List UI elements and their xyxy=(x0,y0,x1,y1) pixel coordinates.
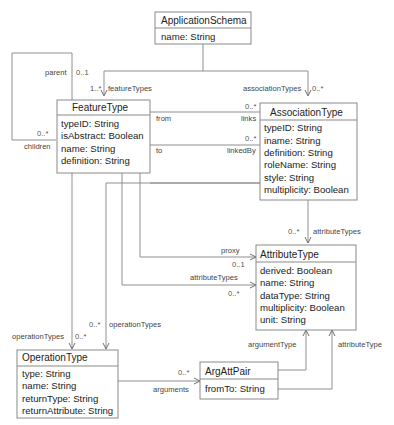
mult-linked-by: 0..* xyxy=(245,134,256,143)
class-attribute: typeID: String xyxy=(264,122,322,133)
class-application-schema[interactable]: ApplicationSchema name: String xyxy=(155,12,251,44)
connector-argument-type xyxy=(278,330,306,370)
mult-feature-attribute-types: 0..* xyxy=(228,289,239,298)
role-proxy: proxy xyxy=(221,246,240,255)
class-attribute: returnType: String xyxy=(22,393,98,404)
mult-proxy: 0..1 xyxy=(232,260,245,269)
class-attribute: returnAttribute: String xyxy=(22,405,113,416)
class-attribute: name: String xyxy=(61,143,115,154)
class-association-type[interactable]: AssociationType typeID: String iname: St… xyxy=(260,103,357,200)
class-attribute: roleName: String xyxy=(264,159,336,170)
class-attribute: dataType: String xyxy=(260,290,330,301)
role-feature-types: featureTypes xyxy=(108,84,152,93)
class-attribute: name: String xyxy=(260,277,314,288)
role-linked-by: linkedBy xyxy=(227,146,256,155)
class-feature-type[interactable]: FeatureType typeID: String isAbstract: B… xyxy=(57,100,150,173)
role-to: to xyxy=(156,146,162,155)
role-children: children xyxy=(24,142,51,151)
role-arguments: arguments xyxy=(153,385,189,394)
class-operation-type[interactable]: OperationType type: String name: String … xyxy=(17,350,118,418)
class-name: OperationType xyxy=(22,352,88,363)
class-attribute-type[interactable]: AttributeType derived: Boolean name: Str… xyxy=(256,245,356,330)
role-other-operation-types: operationTypes xyxy=(109,320,161,329)
mult-links: 0..* xyxy=(245,102,256,111)
class-name: ArgAttPair xyxy=(205,366,251,377)
role-attribute-type: attributeType xyxy=(338,340,382,349)
class-attribute: fromTo: String xyxy=(205,383,265,394)
role-links: links xyxy=(241,114,256,123)
class-attribute: definition: String xyxy=(61,155,130,166)
class-attribute: unit: String xyxy=(260,314,306,325)
connector-proxy xyxy=(140,173,256,257)
class-name: ApplicationSchema xyxy=(161,15,247,26)
role-feature-attribute-types: attributeTypes xyxy=(190,273,238,282)
mult-assoc-attribute-types: 0..* xyxy=(288,227,299,236)
class-attribute: definition: String xyxy=(264,147,333,158)
class-name: AttributeType xyxy=(260,249,319,260)
role-from: from xyxy=(156,114,171,123)
role-parent: parent xyxy=(45,68,67,77)
class-attribute: typeID: String xyxy=(61,118,119,129)
class-attribute: multiplicity: Boolean xyxy=(260,302,345,313)
class-attribute: multiplicity: Boolean xyxy=(264,184,349,195)
class-name: AssociationType xyxy=(270,107,343,118)
uml-class-diagram: featureTypes 1..* associationTypes 0..* … xyxy=(0,0,394,425)
class-arg-att-pair[interactable]: ArgAttPair fromTo: String xyxy=(200,362,278,399)
class-attribute: iname: String xyxy=(264,135,321,146)
role-feature-operation-types: operationTypes xyxy=(12,332,64,341)
class-attribute: name: String xyxy=(161,31,215,42)
mult-feature-operation-types: 0..* xyxy=(75,332,86,341)
mult-children: 0..* xyxy=(37,129,48,138)
mult-parent: 0..1 xyxy=(76,68,89,77)
role-argument-type: argumentType xyxy=(248,340,297,349)
connector-attribute-type xyxy=(278,330,332,389)
class-attribute: isAbstract: Boolean xyxy=(61,130,144,141)
class-attribute: name: String xyxy=(22,380,76,391)
class-attribute: style: String xyxy=(264,172,314,183)
class-attribute: type: String xyxy=(22,368,71,379)
mult-feature-types: 1..* xyxy=(90,84,101,93)
mult-association-types: 0..* xyxy=(312,84,323,93)
class-name: FeatureType xyxy=(72,102,129,113)
mult-arguments: 0..* xyxy=(178,368,189,377)
role-assoc-attribute-types: attributeTypes xyxy=(313,227,361,236)
class-attribute: derived: Boolean xyxy=(260,265,332,276)
mult-other-operation-types: 0..* xyxy=(89,320,100,329)
role-association-types: associationTypes xyxy=(243,84,301,93)
